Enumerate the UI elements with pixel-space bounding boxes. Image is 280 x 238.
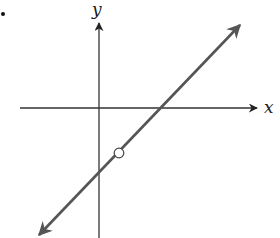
bullet-dot (1, 12, 5, 16)
graph-figure: y x (0, 0, 280, 238)
graph-line (39, 25, 240, 235)
y-axis-label: y (91, 0, 102, 19)
open-circle-point (114, 148, 124, 158)
x-axis-label: x (264, 97, 274, 117)
